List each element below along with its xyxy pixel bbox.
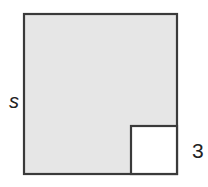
side-label-s: s — [9, 90, 19, 112]
side-label-3: 3 — [192, 139, 204, 162]
figure: s 3 — [0, 0, 208, 187]
inner-square — [131, 126, 177, 174]
